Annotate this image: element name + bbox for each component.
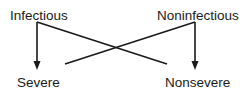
diagram-canvas: Infectious Noninfectious Severe Nonsever… <box>0 0 245 94</box>
edge-noninfectious-to-nonsevere <box>192 22 199 70</box>
node-nonsevere-label: Nonsevere <box>165 75 230 90</box>
edge-line <box>37 22 167 64</box>
edge-noninfectious-to-severe <box>65 22 195 64</box>
edge-line <box>65 22 195 64</box>
edge-infectious-to-nonsevere <box>37 22 167 64</box>
arrowhead-icon <box>192 61 199 70</box>
node-severe-label: Severe <box>17 75 60 90</box>
node-noninfectious-label: Noninfectious <box>157 8 239 23</box>
arrowhead-icon <box>34 61 41 70</box>
node-infectious-label: Infectious <box>10 8 68 23</box>
edge-infectious-to-severe <box>34 22 41 70</box>
